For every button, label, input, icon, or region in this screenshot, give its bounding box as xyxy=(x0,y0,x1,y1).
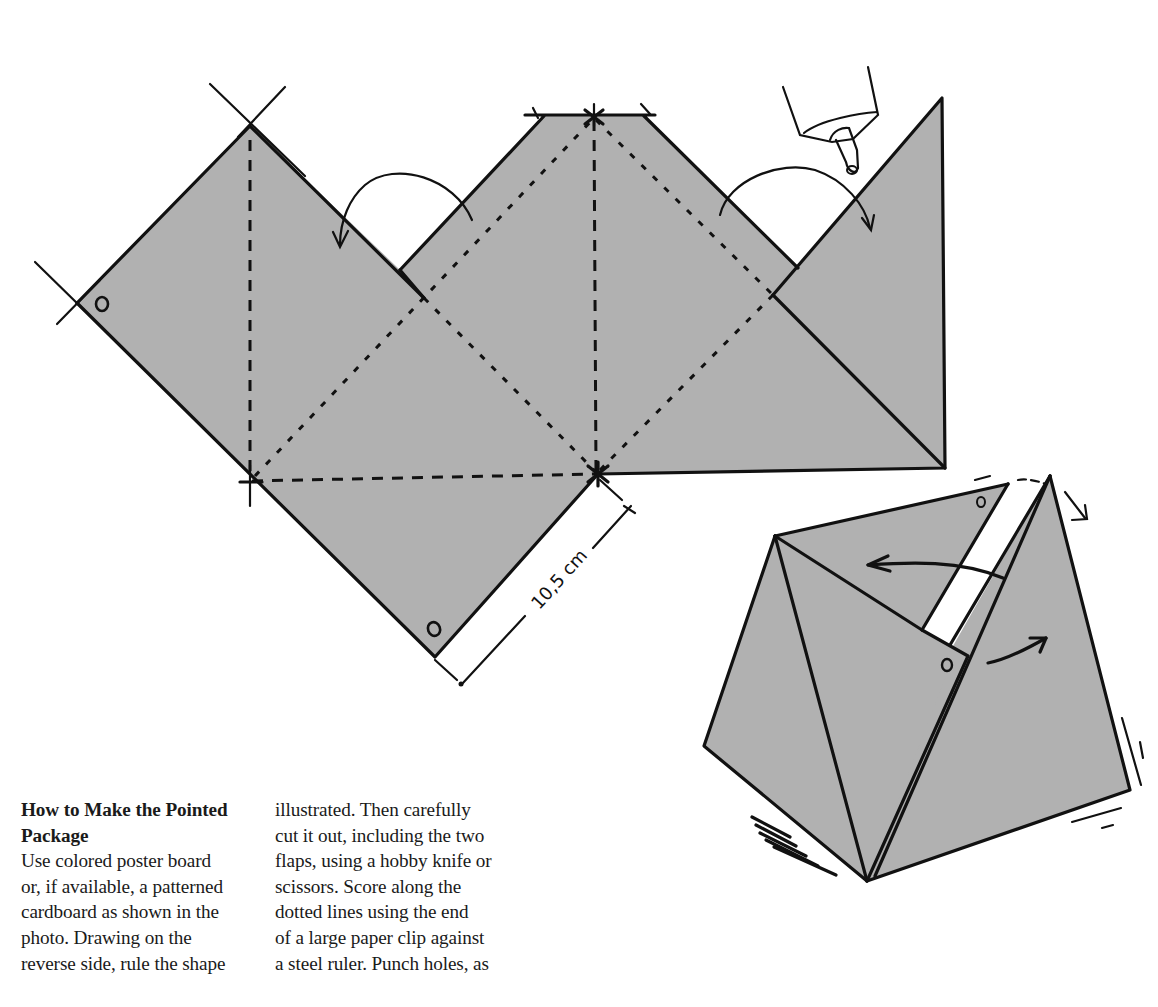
article-column-1: How to Make the Pointed Package Use colo… xyxy=(21,797,271,976)
body-text-line: dotted lines using the end xyxy=(275,899,535,925)
body-text-line: cut it out, including the two xyxy=(275,823,535,849)
glue-bottle-icon xyxy=(783,67,878,174)
assembled-package xyxy=(704,476,1143,881)
article-heading-line-1: How to Make the Pointed xyxy=(21,797,271,823)
body-text-line: flaps, using a hobby knife or xyxy=(275,848,535,874)
body-text-line: scissors. Score along the xyxy=(275,874,535,900)
body-text-line: or, if available, a patterned xyxy=(21,874,271,900)
body-text-line: reverse side, rule the shape xyxy=(21,951,271,977)
body-text-line: of a large paper clip against xyxy=(275,925,535,951)
dimension-label: 10,5 cm xyxy=(527,545,592,613)
body-text-line: a steel ruler. Punch holes, as xyxy=(275,951,535,977)
article-heading-line-2: Package xyxy=(21,823,271,849)
body-text-line: photo. Drawing on the xyxy=(21,925,271,951)
article-column-2: illustrated. Then carefully cut it out, … xyxy=(275,797,535,976)
construction-line xyxy=(641,104,650,114)
body-text-line: illustrated. Then carefully xyxy=(275,797,535,823)
construction-line xyxy=(238,87,285,137)
body-text-line: Use colored poster board xyxy=(21,848,271,874)
body-text-line: cardboard as shown in the xyxy=(21,899,271,925)
